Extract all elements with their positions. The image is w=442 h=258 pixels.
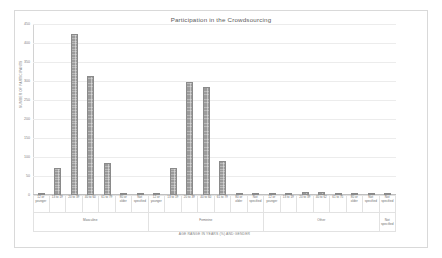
x-axis-category-label-text: 80 or older [235,196,242,204]
x-axis-category-label-text: 61 to 79 [101,196,112,200]
x-axis-category-label-text: 13 to 19 [167,196,178,200]
bar [203,87,210,195]
x-axis-category-label: Not specified [380,195,397,212]
bar [219,161,226,195]
y-axis-tick-label: 450 [24,22,30,26]
x-axis-category-label-text: Not specified [381,196,393,204]
x-axis-group-label: Masculine [33,212,149,231]
x-axis-category-label: 40 to 60 [198,195,215,212]
y-axis-tick-label: 150 [24,136,30,140]
x-axis-category-label-text: 40 to 60 [200,196,211,200]
x-axis-category-label: Not specified [132,195,149,212]
x-axis-group-label: Other [264,212,380,231]
x-axis-category-label: 80 or older [347,195,364,212]
x-axis-category-label-text: 12 or younger [266,196,277,204]
x-axis-category-label-text: 13 to 19 [283,196,294,200]
x-axis-category-label: 61 to 79 [215,195,232,212]
x-axis-group-label-text: Feminine [199,218,212,222]
chart-screenshot: Participation in the Crowdsourcing NUMBE… [0,0,442,258]
x-axis-category-label-text: 13 to 19 [52,196,63,200]
y-axis-tick-label: 250 [24,98,30,102]
x-axis-category-label-text: 80 or older [120,196,127,204]
x-axis-category-label-text: Not specified [134,196,146,204]
bar [87,76,94,195]
x-axis-category-label-text: Not specified [365,196,377,204]
x-axis-category-label: Not specified [363,195,380,212]
x-axis-group-label: Feminine [149,212,265,231]
x-axis-category-label: 12 or younger [33,195,50,212]
x-axis-category-label-text: 40 to 60 [85,196,96,200]
bar [54,168,61,195]
x-axis-category-label: 13 to 19 [50,195,67,212]
x-axis-category-label-text: 12 or younger [35,196,46,204]
bar [71,34,78,196]
x-axis-category-label-text: 61 to 75 [332,196,343,200]
x-axis-category-label: 80 or older [116,195,133,212]
x-axis-category-label-text: Not specified [249,196,261,204]
y-axis-tick-label: 200 [24,117,30,121]
y-axis-tick-label: 300 [24,79,30,83]
plot-area: 050100150200250300350400450 [33,24,396,195]
x-axis-category-label-text: 80 or older [351,196,358,204]
bar-series [33,24,396,195]
x-axis-category-label: 40 to 62 [314,195,331,212]
y-axis-tick-label: 100 [24,155,30,159]
bar [186,82,193,195]
bar [170,168,177,195]
x-axis-category-label-text: 20 to 39 [184,196,195,200]
x-axis-category-label-text: 20 to 39 [68,196,79,200]
x-axis-group-label-text: Other [317,218,325,222]
x-axis-group-label-text: Masculine [83,218,97,222]
x-axis-category-label: 80 or older [231,195,248,212]
x-axis-category-label: 61 to 75 [330,195,347,212]
x-axis-category-label: 12 or younger [149,195,166,212]
x-axis-group-label-text: Not specified [381,218,394,226]
x-axis-category-label: Not specified [248,195,265,212]
bar [104,163,111,195]
chart-title: Participation in the Crowdsourcing [15,16,427,23]
x-axis-category-label: 13 to 19 [165,195,182,212]
category-labels: 12 or younger13 to 1920 to 3940 to 6061 … [33,195,396,231]
x-axis-category-label: 20 to 39 [66,195,83,212]
x-axis-category-label-text: 12 or younger [151,196,162,204]
x-axis-category-label-text: 20 to 39 [299,196,310,200]
category-band-bottom-rule [33,231,396,232]
y-axis-title: NUMBER OF PARTICIPANTS [19,61,23,108]
x-axis-category-label: 40 to 60 [83,195,100,212]
x-axis-category-label: 20 to 39 [297,195,314,212]
x-axis-category-label: 13 to 19 [281,195,298,212]
x-axis-category-label: 12 or younger [264,195,281,212]
y-axis-tick-label: 350 [24,60,30,64]
x-axis-group-label: Not specified [380,212,397,231]
x-axis-category-label: 61 to 79 [99,195,116,212]
y-axis-tick-label: 50 [26,174,30,178]
x-axis-category-label-text: 61 to 79 [217,196,228,200]
x-axis-category-label: 20 to 39 [182,195,199,212]
y-axis-tick-label: 400 [24,41,30,45]
y-axis-tick-label: 0 [28,193,30,197]
x-axis-title: AGE RANGE IN YEARS (%) AND GENDER [33,232,396,236]
x-axis-category-label-text: 40 to 62 [316,196,327,200]
